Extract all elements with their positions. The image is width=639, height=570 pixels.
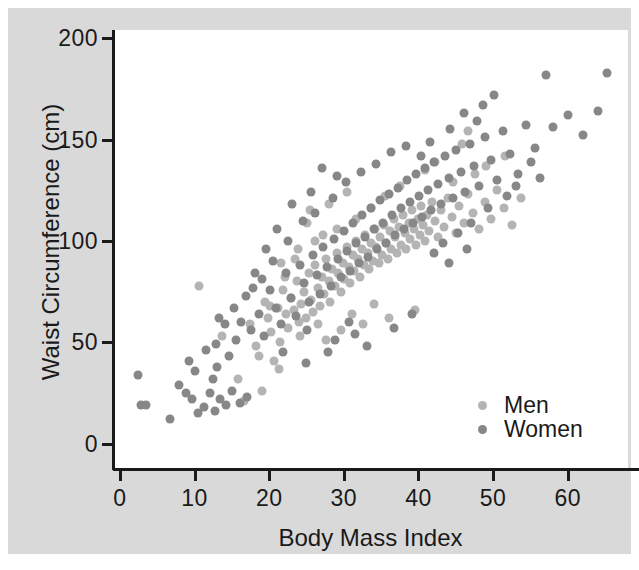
scatter-point-women (512, 182, 521, 191)
scatter-point-women (141, 401, 150, 410)
scatter-point-women (213, 362, 222, 371)
y-axis-line (112, 30, 115, 470)
scatter-point-women (535, 174, 544, 183)
scatter-point-women (271, 303, 280, 312)
scatter-point-women (444, 174, 453, 183)
scatter-point-women (295, 261, 304, 270)
scatter-point-women (385, 190, 394, 199)
scatter-point-women (291, 311, 300, 320)
scatter-point-women (316, 289, 325, 298)
scatter-point-women (403, 176, 412, 185)
scatter-point-women (373, 245, 382, 254)
scatter-point-women (441, 151, 450, 160)
scatter-point-men (255, 352, 264, 361)
scatter-point-women (397, 204, 406, 213)
scatter-point-women (329, 194, 338, 203)
scatter-point-women (459, 109, 468, 118)
y-tick-label: 0 (85, 430, 98, 457)
scatter-point-men (294, 245, 303, 254)
scatter-point-women (222, 401, 231, 410)
scatter-point-women (486, 155, 495, 164)
scatter-point-women (165, 415, 174, 424)
scatter-point-women (273, 224, 282, 233)
scatter-point-women (259, 332, 268, 341)
scatter-point-women (214, 313, 223, 322)
x-tick-mark (417, 470, 420, 481)
scatter-point-women (286, 293, 295, 302)
scatter-point-men (402, 245, 411, 254)
scatter-point-women (465, 139, 474, 148)
scatter-point-men (500, 204, 509, 213)
scatter-point-women (309, 251, 318, 260)
legend-label: Women (504, 418, 583, 441)
x-axis-title: Body Mass Index (113, 524, 628, 552)
scatter-point-women (202, 346, 211, 355)
y-tick-mark (102, 240, 113, 243)
scatter-point-men (315, 301, 324, 310)
x-tick-label: 40 (405, 485, 432, 512)
scatter-point-women (579, 131, 588, 140)
scatter-point-women (312, 271, 321, 280)
scatter-point-women (386, 147, 395, 156)
scatter-point-women (429, 157, 438, 166)
scatter-point-men (279, 285, 288, 294)
scatter-point-women (370, 224, 379, 233)
scatter-point-women (541, 70, 550, 79)
scatter-point-men (385, 313, 394, 322)
scatter-point-women (483, 204, 492, 213)
scatter-point-women (452, 145, 461, 154)
scatter-point-women (531, 143, 540, 152)
scatter-point-women (323, 263, 332, 272)
y-tick-mark (102, 341, 113, 344)
scatter-point-women (415, 192, 424, 201)
scatter-point-women (340, 226, 349, 235)
scatter-point-women (479, 101, 488, 110)
scatter-point-men (217, 332, 226, 341)
scatter-point-women (288, 200, 297, 209)
scatter-point-women (462, 245, 471, 254)
scatter-point-men (393, 249, 402, 258)
scatter-point-women (526, 157, 535, 166)
scatter-point-women (382, 238, 391, 247)
scatter-point-men (314, 320, 323, 329)
scatter-point-men (300, 287, 309, 296)
scatter-point-women (262, 245, 271, 254)
scatter-point-women (389, 324, 398, 333)
x-tick-label: 0 (113, 485, 126, 512)
scatter-point-women (467, 218, 476, 227)
scatter-point-women (394, 184, 403, 193)
scatter-point-men (464, 127, 473, 136)
scatter-point-women (341, 178, 350, 187)
x-tick-mark (343, 470, 346, 481)
scatter-point-women (426, 206, 435, 215)
scatter-point-women (594, 107, 603, 116)
scatter-point-men (420, 236, 429, 245)
scatter-point-men (455, 202, 464, 211)
x-tick-label: 50 (480, 485, 507, 512)
scatter-point-men (336, 326, 345, 335)
scatter-point-men (326, 297, 335, 306)
scatter-point-women (418, 212, 427, 221)
scatter-point-women (350, 330, 359, 339)
scatter-point-men (383, 255, 392, 264)
scatter-point-men (425, 226, 434, 235)
scatter-point-women (300, 279, 309, 288)
x-tick-label: 10 (181, 485, 208, 512)
scatter-point-women (364, 253, 373, 262)
scatter-point-women (174, 380, 183, 389)
scatter-point-men (431, 216, 440, 225)
scatter-point-men (194, 281, 203, 290)
scatter-point-women (406, 198, 415, 207)
scatter-point-women (409, 218, 418, 227)
scatter-point-women (349, 218, 358, 227)
scatter-point-women (247, 326, 256, 335)
scatter-point-women (522, 121, 531, 130)
scatter-point-women (282, 269, 291, 278)
scatter-point-women (513, 169, 522, 178)
scatter-point-women (376, 196, 385, 205)
scatter-point-women (407, 309, 416, 318)
scatter-point-women (603, 68, 612, 77)
scatter-point-women (232, 336, 241, 345)
scatter-point-women (356, 167, 365, 176)
scatter-point-women (185, 356, 194, 365)
